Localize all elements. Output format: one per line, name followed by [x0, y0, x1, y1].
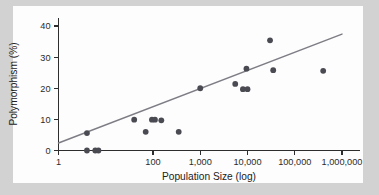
y-tick-label: 20 — [40, 84, 50, 94]
y-tick-label: 40 — [40, 21, 50, 31]
scatter-chart: 11001,00010,000100,0001,000,000 01020304… — [0, 0, 379, 195]
y-tick-label: 0 — [45, 146, 50, 156]
x-tick-label: 10,000 — [233, 157, 261, 167]
data-point — [96, 148, 102, 154]
data-point — [131, 117, 137, 123]
data-point — [244, 66, 250, 72]
data-point — [84, 130, 90, 136]
data-point — [197, 85, 203, 91]
data-point — [84, 148, 90, 154]
x-tick-label: 100,000 — [278, 157, 311, 167]
x-tick-label: 1,000,000 — [322, 157, 363, 167]
data-point — [152, 117, 158, 123]
y-tick-label: 10 — [40, 115, 50, 125]
y-axis-ticks: 010203040 — [40, 21, 58, 156]
data-point — [245, 86, 251, 92]
data-point — [143, 129, 149, 135]
data-point — [176, 129, 182, 135]
x-tick-label: 1 — [56, 157, 61, 167]
x-axis-ticks: 11001,00010,000100,0001,000,000 — [56, 151, 363, 167]
x-axis-title: Population Size (log) — [162, 171, 256, 182]
y-tick-label: 30 — [40, 53, 50, 63]
data-point — [270, 67, 276, 73]
data-point — [158, 117, 164, 123]
x-tick-label: 100 — [145, 157, 160, 167]
data-point — [320, 68, 326, 74]
figure-root: 11001,00010,000100,0001,000,000 01020304… — [0, 0, 379, 195]
x-tick-label: 1,000 — [189, 157, 212, 167]
data-point — [232, 81, 238, 87]
data-point — [267, 37, 273, 43]
y-axis-title: Polymorphism (%) — [8, 42, 19, 125]
